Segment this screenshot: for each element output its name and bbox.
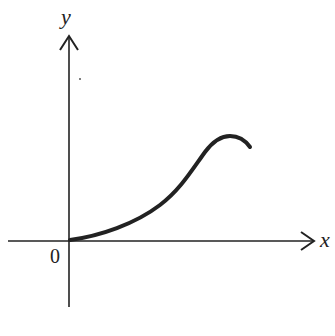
graph-figure: y x 0: [0, 0, 335, 336]
graph-canvas: [0, 0, 335, 336]
x-axis-label: x: [320, 229, 330, 251]
function-curve: [70, 136, 250, 240]
origin-label: 0: [50, 246, 60, 266]
y-axis-label: y: [61, 6, 71, 28]
stray-mark: [79, 78, 81, 80]
